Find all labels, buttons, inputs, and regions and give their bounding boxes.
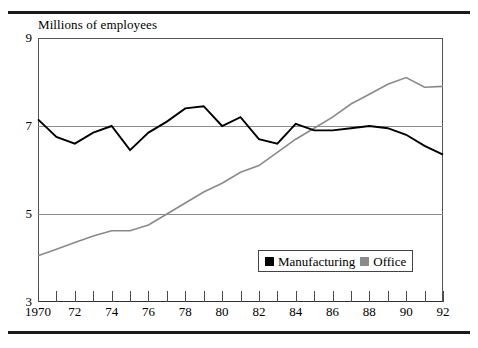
- x-tick-label-1990: 90: [400, 305, 413, 319]
- x-tick-label-1986: 86: [326, 305, 339, 319]
- x-tick-1986: [333, 291, 334, 302]
- x-tick-1983: [277, 291, 278, 302]
- legend-label-manufacturing: Manufacturing: [278, 255, 355, 268]
- x-tick-label-1970: 1970: [25, 305, 51, 319]
- chart-figure: Millions of employees 9753 1970727476788…: [0, 0, 478, 348]
- y-tick-label-9: 9: [10, 31, 32, 44]
- x-tick-1981: [241, 291, 242, 302]
- x-tick-label-1976: 76: [142, 305, 155, 319]
- x-axis-tick-labels: 19707274767880828486889092: [38, 305, 444, 321]
- x-tick-label-1988: 88: [363, 305, 376, 319]
- x-tick-label-1980: 80: [216, 305, 229, 319]
- x-tick-1985: [314, 291, 315, 302]
- x-tick-1973: [93, 291, 94, 302]
- x-tick-1987: [351, 291, 352, 302]
- line-manufacturing: [38, 106, 443, 154]
- legend-item-office: Office: [360, 255, 406, 268]
- y-tick-label-5: 5: [10, 207, 32, 220]
- x-tick-label-1982: 82: [252, 305, 265, 319]
- x-tick-label-1974: 74: [105, 305, 118, 319]
- legend-label-office: Office: [373, 255, 406, 268]
- x-tick-1991: [425, 291, 426, 302]
- x-tick-1984: [296, 291, 297, 302]
- x-tick-1989: [388, 291, 389, 302]
- x-tick-1972: [75, 291, 76, 302]
- y-axis-tick-labels: 9753: [10, 38, 32, 302]
- top-rule: [8, 11, 470, 14]
- x-tick-1971: [56, 291, 57, 302]
- x-tick-1988: [369, 291, 370, 302]
- chart-title: Millions of employees: [38, 17, 157, 32]
- legend-swatch-office-icon: [360, 257, 369, 266]
- x-tick-1979: [204, 291, 205, 302]
- legend-item-manufacturing: Manufacturing: [265, 255, 355, 268]
- x-tick-1992: [443, 291, 444, 302]
- x-tick-1975: [130, 291, 131, 302]
- legend-swatch-manufacturing-icon: [265, 257, 274, 266]
- x-tick-1978: [185, 291, 186, 302]
- bottom-rule: [8, 331, 470, 334]
- x-tick-label-1978: 78: [179, 305, 192, 319]
- x-tick-1990: [406, 291, 407, 302]
- x-axis-ticks: [38, 291, 444, 302]
- chart-legend: Manufacturing Office: [258, 250, 413, 272]
- line-office: [38, 78, 443, 256]
- x-tick-1982: [259, 291, 260, 302]
- x-tick-1970: [38, 291, 39, 302]
- x-tick-1977: [167, 291, 168, 302]
- x-tick-label-1992: 92: [437, 305, 450, 319]
- x-tick-label-1984: 84: [289, 305, 302, 319]
- x-tick-1976: [148, 291, 149, 302]
- y-tick-label-7: 7: [10, 119, 32, 132]
- x-tick-label-1972: 72: [68, 305, 81, 319]
- x-tick-1974: [112, 291, 113, 302]
- x-tick-1980: [222, 291, 223, 302]
